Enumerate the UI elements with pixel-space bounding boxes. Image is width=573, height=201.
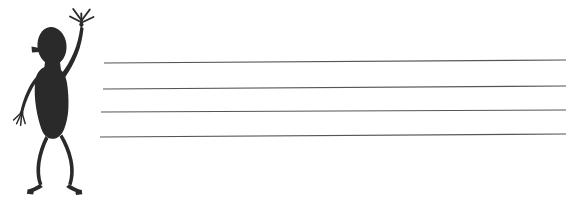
raised-hand-palm — [79, 22, 83, 26]
lowered-hand-palm — [20, 111, 24, 115]
sketch-canvas: Hand-drawn waving stick figure beside fo… — [0, 0, 573, 201]
sketch-scene — [0, 0, 573, 201]
canvas-background — [0, 0, 573, 201]
